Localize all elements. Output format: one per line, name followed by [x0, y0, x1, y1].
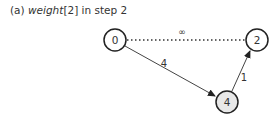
- node-2: 2: [246, 29, 268, 51]
- node-label-2: 2: [254, 34, 261, 46]
- node-label-4: 4: [224, 96, 231, 108]
- edge-0-4: [125, 46, 215, 96]
- edge-label-4-2: 1: [241, 72, 247, 83]
- node-4: 4: [216, 91, 238, 113]
- edge-4-2: [232, 51, 250, 91]
- node-label-0: 0: [112, 34, 119, 46]
- graph-diagram: ∞ 4 1 0 2 4: [0, 0, 280, 118]
- edge-label-0-2: ∞: [178, 27, 186, 37]
- edge-label-0-4: 4: [161, 58, 167, 69]
- node-0: 0: [104, 29, 126, 51]
